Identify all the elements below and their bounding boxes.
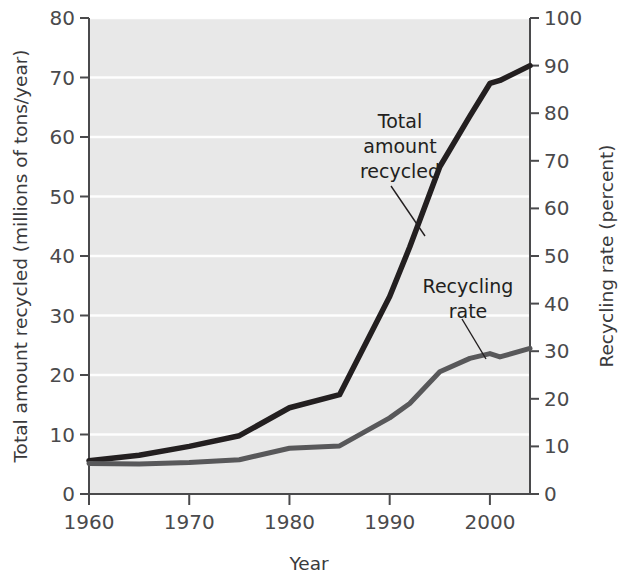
right-axis-tick-label: 20 <box>544 387 569 411</box>
left-axis-tick-label: 20 <box>50 363 75 387</box>
right-axis-tick-label: 0 <box>544 482 557 506</box>
right-axis-title: Recycling rate (percent) <box>596 144 617 367</box>
left-axis-tick-label: 50 <box>50 185 75 209</box>
left-axis-tick-label: 10 <box>50 423 75 447</box>
right-axis-tick-label: 90 <box>544 54 569 78</box>
left-axis-tick-label: 30 <box>50 304 75 328</box>
right-axis-tick-label: 40 <box>544 292 569 316</box>
right-axis-tick-label: 10 <box>544 434 569 458</box>
x-axis-title: Year <box>288 553 329 574</box>
left-axis-tick-label: 70 <box>50 66 75 90</box>
left-axis-tick-label: 40 <box>50 244 75 268</box>
right-axis-tick-label: 80 <box>544 101 569 125</box>
right-axis-tick-label: 60 <box>544 196 569 220</box>
left-axis-tick-labels: 01020304050607080 <box>50 6 75 506</box>
recycling-chart: 01020304050607080 0102030405060708090100… <box>0 0 630 575</box>
right-axis-tick-label: 100 <box>544 6 582 30</box>
left-axis-tick-label: 0 <box>62 482 75 506</box>
right-axis-tick-label: 30 <box>544 339 569 363</box>
right-axis-tick-label: 70 <box>544 149 569 173</box>
right-axis-tick-label: 50 <box>544 244 569 268</box>
left-axis-tick-label: 60 <box>50 125 75 149</box>
x-axis-tick-label: 1970 <box>164 510 215 534</box>
x-axis-tick-label: 1990 <box>364 510 415 534</box>
x-axis-tick-label: 2000 <box>464 510 515 534</box>
left-axis-title: Total amount recycled (millions of tons/… <box>10 49 31 463</box>
x-axis-tick-label: 1960 <box>64 510 115 534</box>
x-axis-tick-label: 1980 <box>264 510 315 534</box>
left-axis-tick-label: 80 <box>50 6 75 30</box>
